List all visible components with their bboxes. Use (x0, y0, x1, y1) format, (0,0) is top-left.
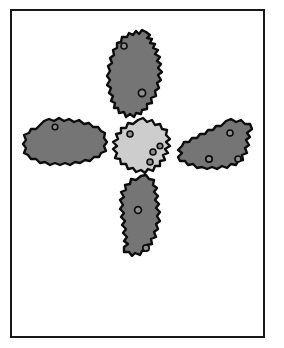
spot-right-1 (227, 130, 233, 136)
spot-bottom-2 (143, 245, 149, 251)
spot-top-1 (121, 43, 127, 49)
cell-left-body (23, 118, 107, 165)
spot-center-4 (147, 159, 153, 165)
figure-root: Cluster of five cells arranged in a cros… (0, 0, 284, 348)
spot-top-2 (138, 89, 145, 96)
spot-bottom-1 (135, 207, 142, 214)
cell-right (178, 119, 252, 169)
cell-center (113, 118, 170, 173)
cell-top (107, 30, 162, 117)
cell-bottom (120, 175, 160, 256)
cell-left (23, 118, 107, 165)
cell-diagram (0, 0, 284, 348)
spot-center-1 (127, 131, 133, 137)
spot-center-3 (150, 149, 156, 155)
spot-right-2 (206, 156, 212, 162)
cell-top-body (107, 30, 162, 117)
spot-right-3 (235, 156, 241, 162)
cell-bottom-body (120, 175, 160, 256)
spot-center-2 (157, 143, 163, 149)
spot-left-1 (52, 124, 58, 130)
cell-right-body (178, 119, 252, 169)
